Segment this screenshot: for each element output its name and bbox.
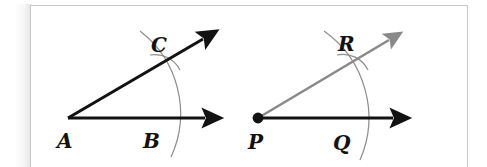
- ray-pr: [258, 40, 389, 118]
- label-point-q: Q: [333, 131, 351, 155]
- label-point-c: C: [151, 33, 167, 57]
- label-point-r: R: [337, 32, 355, 56]
- left-angle-figure: A B C: [55, 31, 205, 157]
- label-point-a: A: [55, 129, 73, 153]
- label-point-p: P: [247, 130, 264, 154]
- vertex-dot-p: [253, 113, 264, 124]
- right-angle-figure: P Q R: [247, 31, 393, 160]
- geometry-figure: A B C P Q R: [0, 0, 487, 167]
- label-point-b: B: [142, 129, 160, 153]
- ray-ac: [68, 39, 203, 118]
- angle-construction-diagram: A B C P Q R: [0, 0, 487, 167]
